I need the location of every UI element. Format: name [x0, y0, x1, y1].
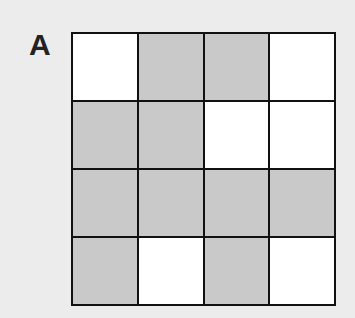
grid-cell-r2-c4 — [270, 102, 334, 168]
grid-cell-r3-c2 — [139, 170, 203, 236]
grid-cell-r1-c2 — [139, 34, 203, 100]
grid-cell-r1-c4 — [270, 34, 334, 100]
grid-cell-r4-c1 — [73, 238, 137, 304]
grid-cell-r1-c3 — [205, 34, 269, 100]
grid-cell-r1-c1 — [73, 34, 137, 100]
grid-cell-r3-c1 — [73, 170, 137, 236]
grid-cell-r2-c2 — [139, 102, 203, 168]
grid-cell-r2-c3 — [205, 102, 269, 168]
grid-cell-r3-c4 — [270, 170, 334, 236]
grid-diagram — [71, 32, 336, 306]
panel-label: A — [29, 30, 51, 60]
grid-cell-r3-c3 — [205, 170, 269, 236]
grid-cell-r2-c1 — [73, 102, 137, 168]
grid-cell-r4-c3 — [205, 238, 269, 304]
grid-cell-r4-c4 — [270, 238, 334, 304]
grid-cell-r4-c2 — [139, 238, 203, 304]
